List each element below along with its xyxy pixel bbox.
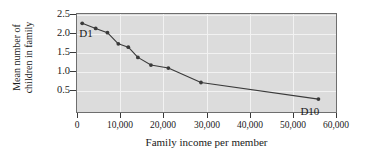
x-tick-mark (120, 113, 121, 118)
data-series (77, 14, 338, 114)
x-tick-label: 60,000 (313, 120, 359, 130)
y-axis-title: Mean number of children in family (11, 0, 34, 116)
x-tick-mark (250, 113, 251, 118)
x-tick-label: 40,000 (227, 120, 273, 130)
data-point (106, 31, 110, 35)
data-point (126, 45, 130, 49)
x-tick-mark (163, 113, 164, 118)
data-point (116, 42, 120, 46)
data-point (317, 97, 321, 101)
data-point (80, 21, 84, 25)
x-tick-label: 0 (54, 120, 100, 130)
y-tick-label: 2.5 (46, 9, 70, 20)
plot-area (76, 13, 337, 113)
x-tick-mark (293, 113, 294, 118)
series-line (82, 23, 318, 99)
y-axis-tick-labels: 2.5 2.0 1.5 1.0 0.5 (44, 0, 70, 130)
chart-figure: 2.5 2.0 1.5 1.0 0.5 0 10,000 20,000 30,0… (0, 0, 365, 161)
annotation-d10: D10 (300, 106, 319, 117)
y-tick-mark (70, 90, 76, 91)
y-tick-label: 0.5 (46, 85, 70, 96)
data-point (166, 66, 170, 70)
annotation-d1: D1 (79, 28, 92, 39)
x-tick-label: 30,000 (184, 120, 230, 130)
y-tick-mark (70, 52, 76, 53)
x-tick-mark (207, 113, 208, 118)
y-tick-mark (70, 14, 76, 15)
x-tick-label: 10,000 (97, 120, 143, 130)
y-axis-title-line-1: Mean number of (11, 0, 23, 116)
data-point (199, 81, 203, 85)
y-tick-label: 2.0 (46, 28, 70, 39)
data-point (136, 56, 140, 60)
data-point (94, 27, 98, 31)
y-tick-mark (70, 71, 76, 72)
y-tick-label: 1.0 (46, 66, 70, 77)
y-tick-mark (70, 33, 76, 34)
x-tick-mark (336, 113, 337, 118)
x-axis-title: Family income per member (76, 136, 337, 148)
series-markers (80, 21, 320, 101)
data-point (149, 63, 153, 67)
y-axis-title-line-2: children in family (22, 0, 34, 116)
y-tick-label: 1.5 (46, 47, 70, 58)
x-tick-mark (77, 113, 78, 118)
x-tick-label: 20,000 (140, 120, 186, 130)
x-tick-label: 50,000 (270, 120, 316, 130)
